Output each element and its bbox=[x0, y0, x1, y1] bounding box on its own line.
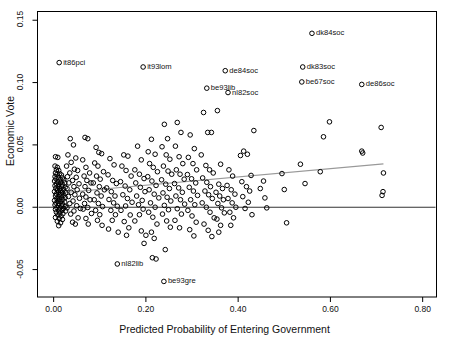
point-label: it86pci bbox=[63, 58, 85, 67]
y-tick-label: -0.05 bbox=[15, 257, 25, 281]
y-tick-label: 0.00 bbox=[15, 194, 25, 218]
axis-ticks bbox=[33, 20, 423, 302]
point-label: be93gre bbox=[168, 276, 196, 285]
regression-fit-line bbox=[54, 164, 384, 194]
x-tick-label: 0.80 bbox=[414, 304, 431, 314]
x-tick-label: 0.40 bbox=[230, 304, 247, 314]
plot-canvas bbox=[0, 0, 449, 339]
y-tick-label: 0.10 bbox=[15, 70, 25, 94]
scatter-plot-figure: 0.000.200.400.600.80 -0.050.000.050.100.… bbox=[0, 0, 449, 339]
data-points bbox=[52, 108, 385, 261]
point-label: de86soc bbox=[366, 79, 395, 88]
point-label: be67soc bbox=[306, 77, 335, 86]
x-axis-title: Predicted Probability of Entering Govern… bbox=[0, 323, 449, 335]
x-tick-label: 0.20 bbox=[138, 304, 155, 314]
x-tick-label: 0.60 bbox=[322, 304, 339, 314]
point-label: dk83soc bbox=[307, 62, 335, 71]
x-tick-label: 0.00 bbox=[45, 304, 62, 314]
y-tick-label: 0.15 bbox=[15, 7, 25, 31]
y-tick-label: 0.05 bbox=[15, 132, 25, 156]
point-label: nl82soc bbox=[232, 88, 258, 97]
point-label: de84soc bbox=[229, 66, 258, 75]
point-label: nl82lib bbox=[121, 259, 143, 268]
point-label: dk84soc bbox=[316, 28, 344, 37]
point-label: it93lom bbox=[147, 62, 171, 71]
y-axis-title: Economic Vote bbox=[4, 96, 16, 166]
